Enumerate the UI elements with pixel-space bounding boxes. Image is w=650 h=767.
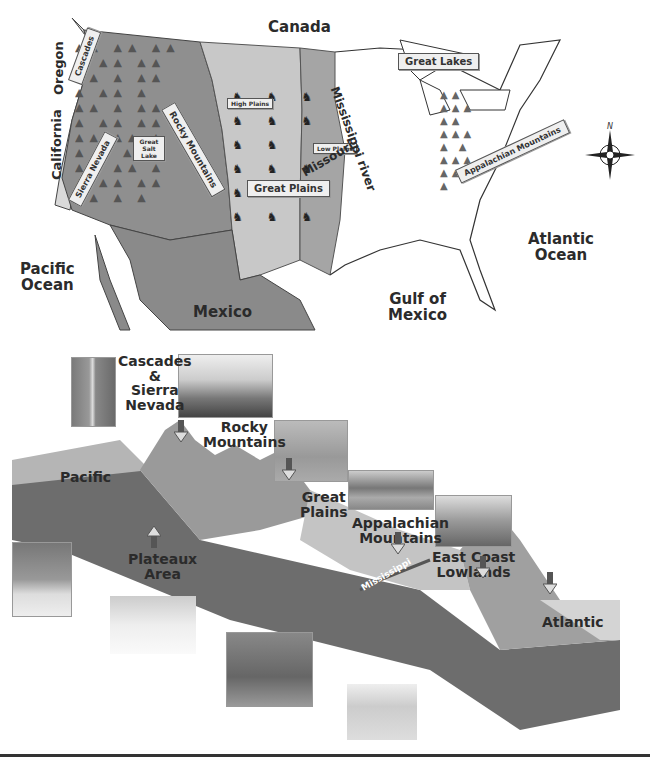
atlantic-sailboats-photo xyxy=(347,684,417,740)
atlantic-label: Atlantic xyxy=(542,615,604,630)
great-plains-sign: Great Plains xyxy=(247,180,330,197)
arrow-down-icon xyxy=(476,556,490,578)
rocky-mountains-label: Rocky Mountains xyxy=(203,420,286,449)
landform-cross-section: Cascades & Sierra Nevada Rocky Mountains… xyxy=(0,340,650,760)
pacific-beach-photo xyxy=(12,542,72,617)
plateaux-area-label: Plateaux Area xyxy=(128,552,197,581)
mexico-label: Mexico xyxy=(193,305,252,321)
compass-rose-icon: N xyxy=(585,120,635,180)
great-lakes-sign: Great Lakes xyxy=(398,53,479,70)
california-label: California xyxy=(50,109,64,180)
arrow-down-icon xyxy=(391,532,405,554)
great-salt-lake-sign: Great Salt Lake xyxy=(133,136,165,161)
atlantic-ocean-label: Atlantic Ocean xyxy=(528,232,594,264)
us-landform-map: ▲▲ ▲▲ ▲▲▲ ▲▲ ▲▲▲▲ ▲ ▲▲▲ ▲▲ ▲▲▲ ▲ ▲▲▲ ▲▲ … xyxy=(0,0,650,340)
appalachian-mountain-glyphs: ▲▲▲▲▲▲▲▲▲▲▲ ▲▲▲▲▲▲▲ xyxy=(440,88,500,208)
east-coast-lowlands-label: East Coast Lowlands xyxy=(432,550,515,579)
high-plains-sign: High Plains xyxy=(227,98,273,109)
cascades-sierra-label: Cascades & Sierra Nevada xyxy=(118,354,192,413)
rocky-peak-photo xyxy=(178,354,273,418)
oregon-label: Oregon xyxy=(52,41,66,95)
pacific-ocean-label: Pacific Ocean xyxy=(20,262,75,294)
pacific-label: Pacific xyxy=(60,470,111,485)
rain-plains-photo xyxy=(226,632,313,707)
arrow-down-icon xyxy=(543,572,557,594)
appalachian-lake-photo xyxy=(348,470,434,510)
arrow-up-icon xyxy=(147,526,161,548)
arrow-down-icon xyxy=(282,458,296,480)
great-plains-label: Great Plains xyxy=(300,490,348,519)
svg-text:N: N xyxy=(607,122,613,131)
plateau-desert-photo xyxy=(110,596,196,654)
canada-label: Canada xyxy=(268,20,331,36)
bottom-divider xyxy=(0,754,650,757)
cascades-waterfall-photo xyxy=(71,357,116,427)
arrow-down-icon xyxy=(174,420,188,442)
gulf-of-mexico-label: Gulf of Mexico xyxy=(388,292,447,324)
